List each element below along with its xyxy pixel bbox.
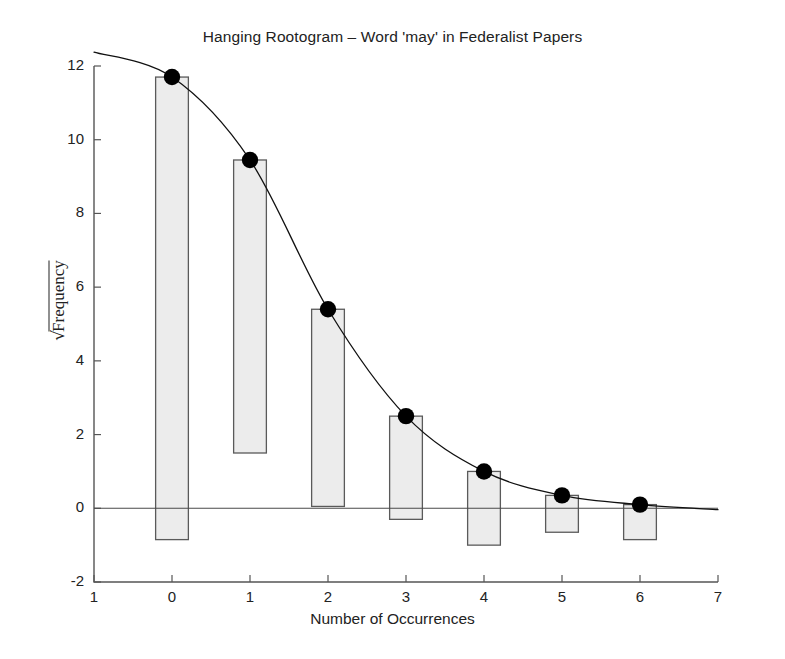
x-tick-label: 3 (391, 588, 421, 605)
x-tick-label: 1 (79, 588, 109, 605)
x-tick-label: 5 (547, 588, 577, 605)
x-tick-label: 2 (313, 588, 343, 605)
y-tick-label: 8 (42, 203, 84, 220)
x-tick-label: 0 (157, 588, 187, 605)
y-tick-label: 12 (42, 56, 84, 73)
data-point-marker[interactable] (476, 463, 492, 479)
x-tick-label: 4 (469, 588, 499, 605)
y-tick-label: 2 (42, 425, 84, 442)
data-point-marker[interactable] (164, 69, 180, 85)
rootogram-bar (234, 160, 267, 453)
rootogram-bar (156, 77, 189, 540)
y-tick-label: 0 (42, 498, 84, 515)
data-point-marker[interactable] (242, 152, 258, 168)
y-tick-label: -2 (42, 572, 84, 589)
y-tick-label: 6 (42, 277, 84, 294)
data-point-marker[interactable] (632, 496, 648, 512)
data-point-marker[interactable] (554, 487, 570, 503)
data-point-marker[interactable] (320, 301, 336, 317)
y-tick-label: 4 (42, 351, 84, 368)
x-tick-label: 7 (703, 588, 733, 605)
plot-canvas (0, 0, 785, 659)
x-tick-label: 6 (625, 588, 655, 605)
rootogram-bar (312, 309, 345, 506)
rootogram-bar (390, 416, 423, 519)
y-tick-label: 10 (42, 130, 84, 147)
rootogram-figure: Hanging Rootogram – Word 'may' in Federa… (0, 0, 785, 659)
x-tick-label: 1 (235, 588, 265, 605)
data-point-marker[interactable] (398, 408, 414, 424)
